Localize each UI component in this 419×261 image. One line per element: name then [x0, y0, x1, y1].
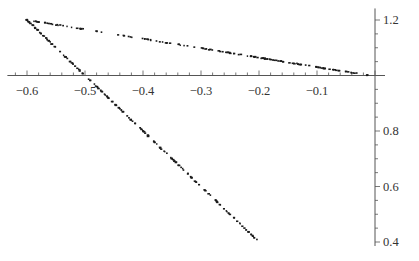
upper-branch-point: [156, 40, 158, 42]
upper-branch-point: [338, 70, 340, 72]
upper-branch-point: [276, 60, 278, 62]
upper-branch-point: [269, 59, 272, 61]
upper-branch-point: [293, 62, 294, 64]
upper-branch-point: [308, 65, 310, 67]
upper-branch-point: [71, 27, 72, 29]
upper-branch-point: [274, 59, 276, 61]
upper-branch-point: [33, 21, 35, 23]
lower-branch-point: [74, 65, 76, 67]
lower-branch-point: [182, 168, 183, 170]
scatter-plot: −0.6−0.5−0.4−0.3−0.2−0.11.20.80.60.4: [0, 0, 419, 261]
lower-branch-point: [245, 229, 246, 231]
upper-branch-point: [240, 54, 243, 56]
lower-branch-point: [126, 115, 128, 117]
upper-branch-point: [101, 31, 103, 33]
upper-branch-point: [52, 24, 54, 26]
upper-branch-point: [128, 36, 130, 38]
lower-branch-point: [128, 117, 130, 119]
lower-branch-point: [166, 152, 168, 154]
lower-branch-point: [59, 51, 61, 53]
lower-branch-point: [48, 40, 51, 42]
lower-branch-point: [142, 131, 145, 133]
upper-branch-point: [335, 70, 337, 72]
lower-branch-point: [89, 80, 91, 82]
upper-branch-point: [169, 42, 171, 44]
lower-branch-point: [243, 227, 245, 229]
lower-branch-point: [250, 234, 252, 236]
lower-branch-point: [159, 147, 162, 149]
lower-branch-point: [239, 222, 240, 224]
upper-branch-point: [266, 58, 268, 60]
lower-branch-point: [31, 24, 33, 26]
lower-branch-point: [82, 73, 84, 75]
upper-branch-point: [324, 68, 326, 70]
upper-branch-point: [150, 40, 151, 42]
lower-branch-point: [43, 35, 45, 37]
lower-branch-point: [241, 225, 243, 227]
y-tick-label: 1.2: [383, 13, 399, 27]
upper-branch-point: [238, 54, 240, 56]
upper-branch-point: [305, 64, 307, 66]
lower-branch-point: [215, 201, 217, 203]
x-tick-label: −0.2: [248, 84, 271, 98]
lower-branch-point: [69, 61, 71, 63]
lower-branch-point: [252, 235, 254, 237]
lower-branch-point: [50, 43, 53, 45]
lower-branch-point: [207, 193, 210, 195]
upper-branch-point: [219, 51, 221, 53]
upper-branch-point: [56, 24, 58, 26]
upper-branch-point: [36, 21, 38, 23]
axes: [7, 8, 385, 246]
lower-branch-point: [26, 19, 28, 21]
upper-branch-point: [62, 25, 64, 27]
upper-branch-point: [202, 48, 204, 50]
lower-branch-point: [106, 95, 108, 97]
lower-branch-point: [122, 111, 125, 113]
upper-branch-point: [183, 45, 184, 47]
y-tick-label: 0.8: [383, 124, 399, 138]
lower-branch-point: [65, 56, 67, 58]
upper-branch-point: [193, 46, 195, 48]
lower-branch-point: [210, 194, 212, 196]
upper-branch-point: [247, 55, 248, 57]
lower-branch-point: [104, 93, 106, 95]
upper-branch-point: [262, 57, 264, 59]
lower-branch-point: [171, 158, 173, 160]
lower-branch-point: [220, 204, 222, 206]
lower-branch-point: [53, 46, 55, 48]
lower-branch-point: [174, 160, 176, 162]
upper-branch-point: [159, 41, 161, 43]
lower-branch-point: [183, 169, 185, 171]
upper-branch-point: [282, 61, 284, 63]
lower-branch-point: [107, 97, 109, 99]
lower-branch-point: [46, 39, 48, 41]
lower-branch-point: [175, 161, 177, 163]
upper-branch-point: [146, 38, 149, 40]
x-tick-label: −0.3: [190, 84, 213, 98]
upper-branch-point: [82, 28, 84, 30]
lower-branch-point: [29, 22, 31, 24]
lower-branch-point: [154, 142, 156, 144]
lower-branch-point: [187, 173, 189, 175]
lower-branch-point: [178, 165, 181, 167]
upper-branch-point: [250, 55, 252, 57]
lower-branch-point: [37, 29, 39, 31]
upper-branch-point: [233, 53, 235, 55]
upper-branch-point: [356, 72, 358, 74]
upper-branch-point: [297, 63, 299, 65]
tick-labels: −0.6−0.5−0.4−0.3−0.2−0.11.20.80.60.4: [16, 13, 400, 249]
lower-branch-point: [139, 127, 141, 129]
upper-branch-point: [206, 48, 208, 50]
lower-branch-point: [101, 91, 103, 93]
upper-branch-point: [322, 67, 324, 69]
upper-branch-point: [366, 74, 368, 76]
lower-branch-point: [40, 32, 41, 34]
lower-branch-point: [226, 211, 227, 213]
lower-branch-point: [115, 105, 118, 107]
lower-branch-point: [256, 239, 258, 241]
upper-branch-point: [130, 36, 132, 38]
upper-branch-point: [144, 38, 146, 40]
lower-branch-point: [223, 208, 225, 210]
x-tick-label: −0.1: [306, 84, 329, 98]
upper-branch-point: [272, 59, 273, 61]
